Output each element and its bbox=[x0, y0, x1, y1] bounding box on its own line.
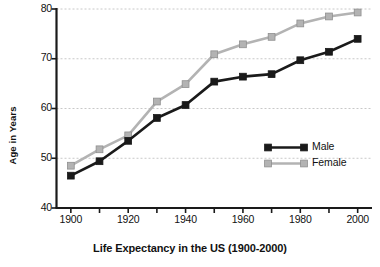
data-point-male-1940 bbox=[182, 102, 189, 109]
data-point-female-1910 bbox=[96, 146, 103, 153]
y-tick-label-50: 50 bbox=[28, 151, 52, 163]
y-tick-label-60: 60 bbox=[28, 101, 52, 113]
chart-title: Life Expectancy in the US (1900-2000) bbox=[0, 242, 380, 254]
data-point-male-1930 bbox=[153, 115, 160, 122]
x-tick-label-2000: 2000 bbox=[336, 213, 380, 225]
data-point-male-1990 bbox=[326, 48, 333, 55]
data-point-female-1950 bbox=[211, 51, 218, 58]
x-tick-label-1900: 1900 bbox=[49, 213, 93, 225]
x-tick-label-1940: 1940 bbox=[164, 213, 208, 225]
x-tick-label-1960: 1960 bbox=[221, 213, 265, 225]
data-point-male-1980 bbox=[297, 57, 304, 64]
data-point-female-1990 bbox=[326, 13, 333, 20]
y-tick-label-70: 70 bbox=[28, 51, 52, 63]
legend-marker-male bbox=[265, 144, 272, 151]
legend-marker-male bbox=[301, 144, 308, 151]
x-tick-label-1980: 1980 bbox=[278, 213, 322, 225]
data-point-male-2000 bbox=[354, 35, 361, 42]
data-point-female-1980 bbox=[297, 20, 304, 27]
data-point-female-1900 bbox=[67, 162, 74, 169]
data-point-female-2000 bbox=[354, 9, 361, 16]
data-point-male-1960 bbox=[240, 73, 247, 80]
data-point-male-1970 bbox=[268, 71, 275, 78]
y-axis-title: Age in Years bbox=[7, 93, 18, 179]
data-point-female-1940 bbox=[182, 81, 189, 88]
y-tick-label-80: 80 bbox=[28, 2, 52, 14]
legend-marker-female bbox=[265, 160, 272, 167]
x-tick-label-1920: 1920 bbox=[106, 213, 150, 225]
data-point-male-1950 bbox=[211, 78, 218, 85]
legend-label-female: Female bbox=[312, 156, 346, 168]
legend-label-male: Male bbox=[312, 140, 334, 152]
y-tick-label-40: 40 bbox=[28, 201, 52, 213]
chart-plot-area bbox=[0, 0, 380, 267]
data-point-female-1930 bbox=[153, 98, 160, 105]
data-point-female-1960 bbox=[240, 41, 247, 48]
data-point-female-1970 bbox=[268, 33, 275, 40]
legend-marker-female bbox=[301, 160, 308, 167]
data-point-male-1910 bbox=[96, 158, 103, 165]
data-point-male-1900 bbox=[67, 172, 74, 179]
chart-container: 4050607080 190019201940196019802000 Age … bbox=[0, 0, 380, 267]
data-point-male-1920 bbox=[125, 137, 132, 144]
